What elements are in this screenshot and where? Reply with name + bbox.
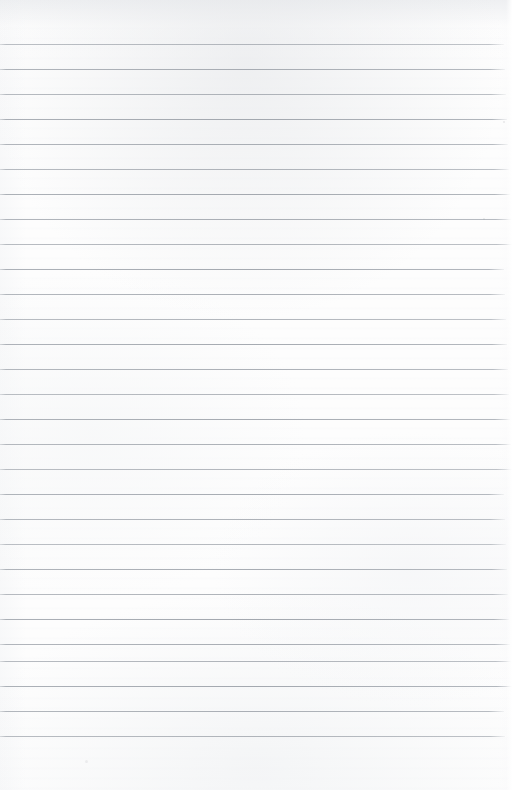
ruled-line <box>0 544 506 545</box>
ruled-lines-layer <box>0 0 512 790</box>
ruled-line <box>0 119 507 120</box>
ruled-line <box>0 269 504 270</box>
ruled-line <box>0 569 507 570</box>
ruled-line <box>0 94 506 95</box>
ruled-line <box>0 686 512 687</box>
ruled-line <box>0 661 511 662</box>
ruled-line <box>0 644 510 645</box>
ruled-line <box>0 469 512 470</box>
ruled-line <box>0 519 505 520</box>
ruled-line <box>0 194 510 195</box>
ruled-line <box>0 344 507 345</box>
scanned-page <box>0 0 512 790</box>
ruled-line <box>0 244 512 245</box>
ruled-line <box>0 169 509 170</box>
ruled-line <box>0 619 509 620</box>
ruled-line <box>0 319 506 320</box>
ruled-line <box>0 44 504 45</box>
ruled-line <box>0 394 509 395</box>
ruled-line <box>0 494 504 495</box>
ruled-line <box>0 219 511 220</box>
ruled-line <box>0 711 504 712</box>
ruled-line <box>0 419 510 420</box>
ruled-line <box>0 444 511 445</box>
ruled-line <box>0 144 508 145</box>
ruled-line <box>0 594 508 595</box>
ruled-line <box>0 294 505 295</box>
ruled-line <box>0 369 508 370</box>
ruled-line <box>0 69 505 70</box>
ruled-line <box>0 736 505 737</box>
